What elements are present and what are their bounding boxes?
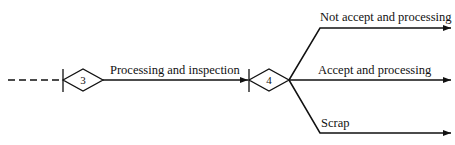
node-3-label: 3 <box>76 75 90 86</box>
edge-label-accept: Accept and processing <box>318 64 431 77</box>
flow-diagram: 3 4 Processing and inspection Not accept… <box>0 0 455 145</box>
edge-scrap <box>289 80 451 133</box>
edge-label-processing-inspection: Processing and inspection <box>110 64 240 77</box>
node-4-label: 4 <box>262 75 276 86</box>
edge-label-scrap: Scrap <box>321 117 349 130</box>
edge-label-not-accept: Not accept and processing <box>320 11 452 24</box>
